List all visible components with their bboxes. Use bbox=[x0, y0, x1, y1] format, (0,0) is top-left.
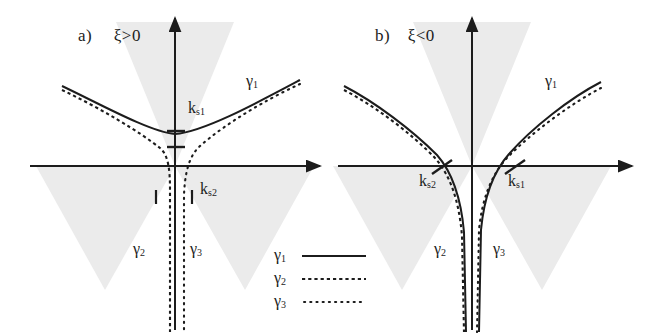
panel-a-ks2-label: ks2 bbox=[200, 180, 217, 198]
legend-entry-gamma-2: γ2 bbox=[274, 269, 286, 287]
panel-a-gamma-1-label: γ1 bbox=[246, 72, 258, 90]
panel-b-label: b) ξ<0 bbox=[375, 26, 435, 46]
gamma-subscript: 3 bbox=[281, 299, 286, 310]
legend-entry-gamma-1: γ1 bbox=[274, 246, 286, 264]
panel-b-condition: ξ<0 bbox=[408, 26, 435, 45]
dispersion-diagram bbox=[0, 0, 652, 333]
k-glyph: k bbox=[188, 99, 196, 116]
panel-b-ks1-label: ks1 bbox=[508, 172, 525, 190]
panel-b-gamma-1-label: γ1 bbox=[545, 72, 557, 90]
k-glyph: k bbox=[200, 180, 208, 197]
k-subscript: s2 bbox=[427, 179, 436, 190]
panel-b-ks2-label: ks2 bbox=[419, 172, 436, 190]
gamma-subscript: 1 bbox=[281, 253, 286, 264]
panel-a-ks1-label: ks1 bbox=[188, 99, 205, 117]
panel-a-label: a) ξ>0 bbox=[78, 26, 141, 46]
legend-entry-gamma-3: γ3 bbox=[274, 292, 286, 310]
gamma-subscript: 1 bbox=[552, 79, 557, 90]
panel-a-gamma-2-label: γ2 bbox=[133, 240, 145, 258]
gamma-subscript: 3 bbox=[500, 247, 505, 258]
panel-a-letter: a) bbox=[78, 26, 92, 45]
gamma-subscript: 1 bbox=[253, 79, 258, 90]
k-glyph: k bbox=[419, 172, 427, 189]
panel-a-condition: ξ>0 bbox=[114, 26, 141, 45]
panel-a-gamma-3-label: γ3 bbox=[190, 240, 202, 258]
k-subscript: s2 bbox=[208, 187, 217, 198]
k-glyph: k bbox=[508, 172, 516, 189]
k-subscript: s1 bbox=[516, 179, 525, 190]
panel-b-letter: b) bbox=[375, 26, 390, 45]
gamma-subscript: 2 bbox=[281, 276, 286, 287]
panel-b-gamma-3-label: γ3 bbox=[493, 240, 505, 258]
panel-b-gamma-2-label: γ2 bbox=[434, 240, 446, 258]
gamma-subscript: 2 bbox=[140, 247, 145, 258]
gamma-subscript: 2 bbox=[441, 247, 446, 258]
k-subscript: s1 bbox=[196, 106, 205, 117]
gamma-subscript: 3 bbox=[197, 247, 202, 258]
